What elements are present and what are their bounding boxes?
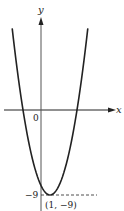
y-tick-label: −9 (25, 190, 39, 200)
origin-label: 0 (33, 113, 39, 123)
parabola-graph: y x 0 −9 (1, −9) (0, 0, 124, 211)
vertex-label: (1, −9) (45, 200, 77, 210)
y-axis-arrow-icon (39, 17, 44, 25)
y-axis-label: y (37, 4, 44, 15)
x-axis-label: x (116, 104, 122, 115)
parabola-curve (12, 28, 88, 195)
x-axis-arrow-icon (108, 108, 116, 113)
